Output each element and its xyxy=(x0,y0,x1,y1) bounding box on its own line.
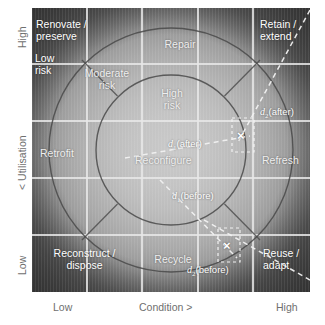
marker-after: × xyxy=(237,128,245,143)
risk-label-moderate: Moderate risk xyxy=(74,68,140,91)
d1-before-qualifier: (before) xyxy=(181,190,214,201)
cell-label-repair: Repair xyxy=(150,39,210,51)
y-axis-label-low: Low xyxy=(16,256,28,275)
vector-label-d2-before: d2(before) xyxy=(187,264,229,280)
x-axis-label-low: Low xyxy=(53,301,72,313)
cell-label-reconfigure: Reconfigure xyxy=(135,155,192,167)
vector-label-d2-after: d2(after) xyxy=(260,106,294,122)
cell-label-retrofit: Retrofit xyxy=(40,148,74,160)
x-axis-label-high: High xyxy=(276,301,298,313)
risk-label-low: Low risk xyxy=(35,53,54,76)
cell-label-refresh: Refresh xyxy=(262,155,299,167)
d2-after-qualifier: (after) xyxy=(269,106,294,117)
d1-after-qualifier: (after) xyxy=(177,138,202,149)
cell-label-retain-extend: Retain / extend xyxy=(260,19,296,42)
figure-root: Renovate / preserve Repair Retain / exte… xyxy=(0,0,325,325)
y-axis-title: < Utilisation xyxy=(16,135,28,190)
x-axis-title: Condition > xyxy=(139,301,192,313)
risk-label-high: High risk xyxy=(144,88,200,111)
y-axis-label-high: High xyxy=(16,26,28,48)
d2-before-qualifier: (before) xyxy=(196,264,229,275)
vector-label-d1-after: d1(after) xyxy=(168,138,202,154)
vector-label-d1-before: d1(before) xyxy=(172,190,214,206)
cell-label-reuse-adapt: Reuse / adapt xyxy=(263,248,299,271)
matrix-plot-area: Renovate / preserve Repair Retain / exte… xyxy=(32,8,310,292)
cell-label-reconstruct-dispose: Reconstruct / dispose xyxy=(32,248,137,271)
marker-before: × xyxy=(223,238,231,253)
cell-label-renovate-preserve: Renovate / preserve xyxy=(36,19,87,42)
